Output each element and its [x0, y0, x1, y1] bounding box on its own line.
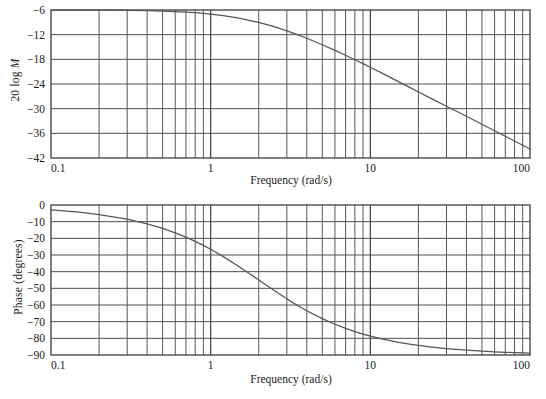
y-tick-label: −42: [27, 152, 45, 164]
magnitude-y-tick-labels: −6−12−18−24−30−36−42: [27, 4, 45, 164]
phase-plot-svg: 0−10−20−30−40−50−60−70−80−90 0.1110100: [0, 195, 546, 399]
phase-x-axis-label: Frequency (rad/s): [181, 373, 401, 385]
magnitude-curve: [51, 10, 530, 149]
y-tick-label: −30: [27, 249, 45, 261]
magnitude-x-tick-labels: 0.1110100: [51, 162, 530, 174]
x-tick-label: 1: [208, 162, 214, 174]
phase-gridlines: [51, 205, 530, 355]
y-tick-label: −30: [27, 103, 45, 115]
x-tick-label: 10: [365, 359, 377, 371]
y-tick-label: −90: [27, 349, 45, 361]
y-tick-label: −24: [27, 78, 45, 90]
y-tick-label: −36: [27, 127, 45, 139]
y-tick-label: 0: [39, 199, 45, 211]
x-tick-label: 0.1: [51, 359, 66, 371]
x-tick-label: 10: [365, 162, 377, 174]
y-tick-label: −40: [27, 266, 45, 278]
magnitude-panel: 20 log M −6−12−18−24−30−36−42 0.1110100 …: [0, 0, 546, 195]
y-tick-label: −50: [27, 282, 45, 294]
phase-plot-frame: [51, 205, 530, 355]
phase-y-tick-labels: 0−10−20−30−40−50−60−70−80−90: [27, 199, 45, 361]
x-tick-label: 100: [513, 162, 531, 174]
magnitude-plot-svg: −6−12−18−24−30−36−42 0.1110100: [0, 0, 546, 195]
x-tick-label: 0.1: [51, 162, 66, 174]
x-tick-label: 100: [513, 359, 531, 371]
phase-panel: Phase (degrees) 0−10−20−30−40−50−60−70−8…: [0, 195, 546, 399]
phase-curve: [51, 210, 530, 353]
y-tick-label: −60: [27, 299, 45, 311]
y-tick-label: −18: [27, 53, 45, 65]
y-tick-label: −80: [27, 332, 45, 344]
y-tick-label: −12: [27, 29, 45, 41]
y-tick-label: −10: [27, 216, 45, 228]
x-tick-label: 1: [208, 359, 214, 371]
phase-x-tick-labels: 0.1110100: [51, 359, 530, 371]
y-tick-label: −70: [27, 316, 45, 328]
y-tick-label: −20: [27, 232, 45, 244]
bode-plot-figure: 20 log M −6−12−18−24−30−36−42 0.1110100 …: [0, 0, 546, 399]
magnitude-x-axis-label: Frequency (rad/s): [181, 174, 401, 186]
y-tick-label: −6: [33, 4, 45, 16]
